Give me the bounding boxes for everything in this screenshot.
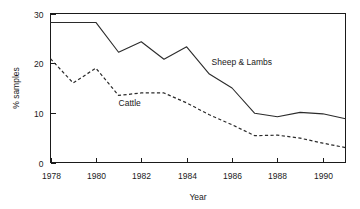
x-axis-tick-labels: 1978198019821984198619881990	[42, 171, 333, 181]
plot-frame	[51, 14, 346, 163]
series-label-cattle: Cattle	[119, 98, 141, 108]
x-tick-label: 1986	[223, 171, 242, 181]
x-tick-label: 1982	[132, 171, 151, 181]
series-label-sheep-lambs: Sheep & Lambs	[212, 57, 272, 67]
x-tick-label: 1978	[42, 171, 61, 181]
y-axis-ticks	[51, 15, 56, 164]
x-axis-ticks	[52, 158, 324, 163]
y-axis-title: % samples	[11, 67, 21, 109]
y-axis-tick-labels: 0102030	[34, 10, 44, 169]
series-group	[51, 22, 346, 147]
y-tick-label: 30	[34, 10, 44, 20]
y-tick-label: 20	[34, 59, 44, 69]
series-line-sheep-lambs	[51, 22, 346, 118]
x-tick-label: 1988	[268, 171, 287, 181]
x-tick-label: 1980	[87, 171, 106, 181]
x-tick-label: 1984	[178, 171, 197, 181]
chart-canvas: 0102030 1978198019821984198619881990 She…	[0, 0, 360, 209]
line-chart: 0102030 1978198019821984198619881990 She…	[0, 0, 360, 209]
x-axis-title: Year	[189, 192, 206, 202]
series-labels: Sheep & LambsCattle	[119, 57, 273, 108]
x-tick-label: 1990	[314, 171, 333, 181]
y-tick-label: 0	[39, 159, 44, 169]
y-tick-label: 10	[34, 109, 44, 119]
series-line-cattle	[51, 59, 346, 148]
